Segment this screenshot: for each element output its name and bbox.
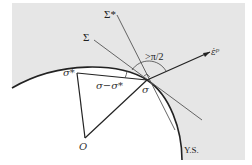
label-strain-rate: ε̇ᵖ (211, 47, 220, 57)
origin-to-sigma-star-line (77, 73, 85, 138)
label-sigma-star-plane: Σ* (104, 8, 116, 20)
label-yield-surface: Y.S. (184, 145, 199, 155)
yield-surface-diagram: Σ* Σ >π/2 ε̇ᵖ σ* σ−σ* σ O Y.S. (0, 0, 252, 165)
label-sigma: σ (142, 84, 150, 95)
small-angle-arc (125, 71, 127, 78)
label-difference: σ−σ* (96, 80, 123, 91)
label-sigma-star: σ* (63, 67, 75, 78)
label-origin: O (79, 141, 87, 152)
outside-yield-region (12, 3, 245, 160)
label-sigma-plane: Σ (83, 31, 89, 43)
label-angle: >π/2 (145, 51, 163, 62)
